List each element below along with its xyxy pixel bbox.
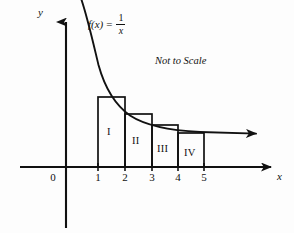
function-equals: = [106, 19, 112, 30]
origin-label: 0 [48, 172, 58, 183]
function-label: f(x) = 1 x [88, 13, 125, 36]
x-axis-label: x [277, 171, 282, 182]
y-axis-label: y [38, 7, 43, 18]
rectangle-label-IV: IV [184, 148, 195, 159]
rectangle-label-II: II [132, 136, 139, 147]
x-tick-label-1: 1 [93, 172, 103, 183]
x-tick-label-3: 3 [147, 172, 157, 183]
fraction-numerator: 1 [116, 13, 125, 24]
fraction-one-over-x: 1 x [116, 13, 125, 36]
rectangle-label-I: I [107, 127, 111, 138]
fraction-denominator: x [117, 25, 125, 36]
function-name: f(x) [88, 19, 103, 30]
not-to-scale-note: Not to Scale [155, 56, 206, 67]
x-tick-label-2: 2 [120, 172, 130, 183]
rectangle-label-III: III [157, 144, 168, 155]
figure-canvas: y x 0 1 2 3 4 5 I II III IV Not to Scale… [0, 0, 294, 233]
x-tick-label-4: 4 [173, 172, 183, 183]
x-tick-label-5: 5 [199, 172, 209, 183]
figure-graphics [0, 0, 294, 233]
